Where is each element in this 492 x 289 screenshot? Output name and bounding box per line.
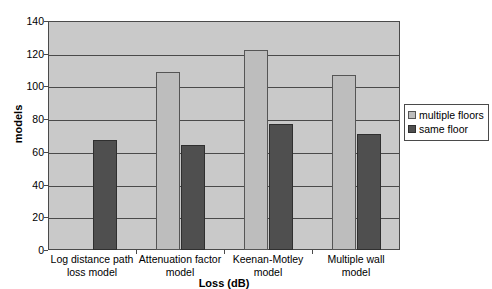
bar-same-floor (181, 145, 205, 250)
legend-swatch-icon (408, 111, 416, 119)
bar-group (136, 21, 224, 250)
y-axis-tick-mark (44, 250, 48, 251)
bar-group (312, 21, 400, 250)
x-axis-category-label: Multiple wallmodel (304, 253, 408, 279)
y-axis-tick-label: 120 (0, 49, 44, 59)
bar-multiple-floors (156, 72, 180, 250)
bar-same-floor (93, 140, 117, 250)
bar-same-floor (357, 134, 381, 250)
chart-legend: multiple floorssame floor (404, 104, 489, 141)
legend-item[interactable]: multiple floors (408, 108, 484, 122)
bar-group (224, 21, 312, 250)
y-axis-tick-label: 20 (0, 212, 44, 222)
x-axis-category-label-line: Multiple wall (304, 253, 408, 266)
bar-multiple-floors (244, 50, 268, 250)
y-axis-tick-label: 100 (0, 81, 44, 91)
y-axis-tick-label: 40 (0, 180, 44, 190)
legend-swatch-icon (408, 125, 416, 133)
legend-item[interactable]: same floor (408, 122, 484, 136)
bar-multiple-floors (332, 75, 356, 250)
legend-label: same floor (419, 124, 468, 135)
legend-label: multiple floors (419, 110, 484, 121)
y-axis-tick-label: 80 (0, 114, 44, 124)
bar-same-floor (269, 124, 293, 250)
y-axis-tick-label: 0 (0, 245, 44, 255)
x-axis-title: Loss (dB) (48, 277, 400, 289)
bar-group (48, 21, 136, 250)
y-axis-tick-label: 60 (0, 147, 44, 157)
bars-layer (48, 21, 400, 250)
y-axis-tick-label: 140 (0, 16, 44, 26)
